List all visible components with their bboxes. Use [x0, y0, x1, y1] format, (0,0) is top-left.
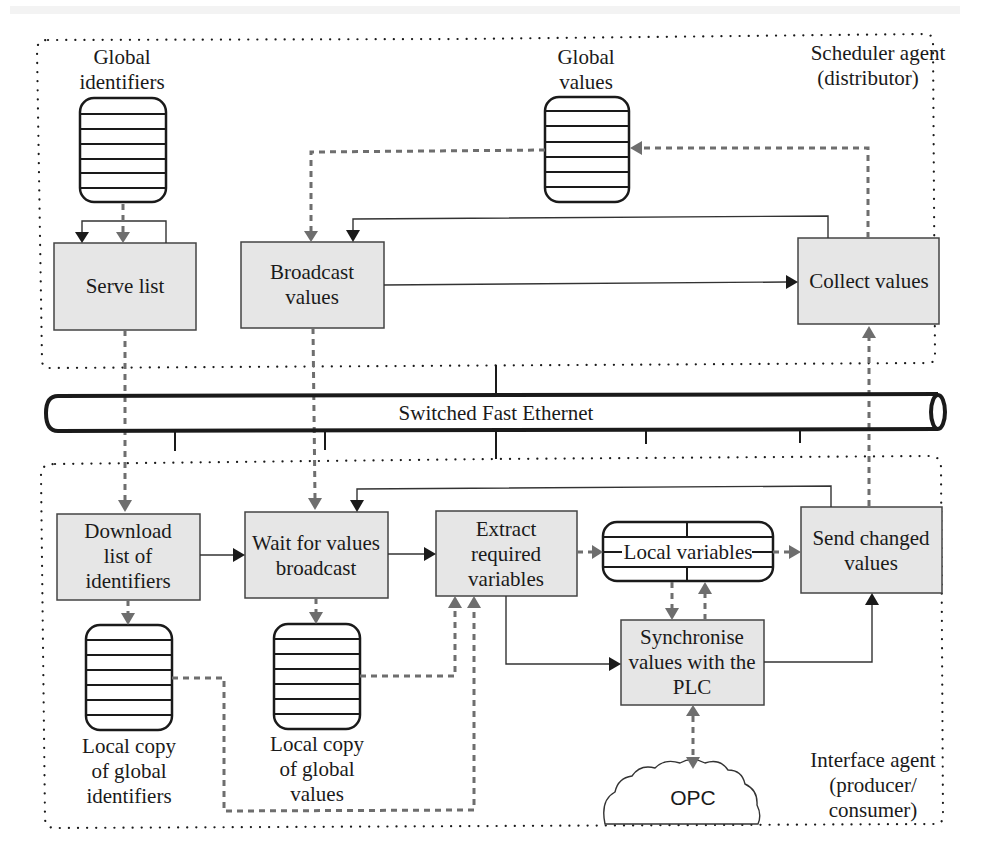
interface-agent-label: Interface agent	[810, 748, 935, 772]
download-list-label-2: list of	[104, 544, 152, 568]
arrowhead	[786, 275, 798, 289]
arrowhead	[865, 593, 879, 605]
arrowhead	[424, 547, 436, 561]
global-values-label-2: values	[559, 70, 613, 94]
opc-label: OPC	[670, 786, 716, 809]
sync-to-send-arrow	[764, 605, 872, 662]
arrowhead	[789, 545, 801, 559]
arrowhead	[698, 582, 712, 594]
global-values-to-broadcast-arrow	[311, 150, 545, 232]
global-values-store-icon	[545, 97, 629, 202]
arrowhead	[304, 231, 318, 242]
broadcast-values-label-2: values	[285, 285, 339, 309]
arrowhead	[118, 500, 132, 512]
global-identifiers-store-icon	[80, 98, 166, 202]
global-identifiers-label: Global	[93, 45, 150, 69]
arrowhead	[75, 232, 89, 243]
arrowhead	[121, 613, 135, 625]
arrowhead	[448, 596, 462, 608]
arrowhead	[467, 596, 481, 608]
scheduler-agent-label: Scheduler agent	[811, 41, 946, 65]
download-list-label: Download	[84, 519, 172, 543]
network-label: Switched Fast Ethernet	[399, 401, 594, 425]
collect-values-label: Collect values	[809, 269, 929, 293]
arrowhead	[308, 498, 322, 510]
download-list-label-3: identifiers	[85, 569, 170, 593]
arrowhead	[346, 230, 360, 242]
global-values-label: Global	[557, 45, 614, 69]
scheduler-agent-sublabel: (distributor)	[817, 66, 918, 90]
broadcast-values-label: Broadcast	[270, 260, 354, 284]
extract-to-sync-arrow	[506, 596, 609, 664]
global-identifiers-label-2: identifiers	[79, 70, 164, 94]
interface-agent-sublabel-2: consumer)	[829, 798, 918, 822]
wait-broadcast-label: Wait for values	[252, 531, 380, 555]
local-values-label-2: of global	[279, 757, 354, 781]
arrowhead	[665, 608, 679, 620]
local-values-store-icon	[274, 624, 360, 729]
send-changed-values-process[interactable]	[801, 507, 942, 593]
interface-agent-sublabel: (producer/	[829, 773, 917, 797]
arrowhead	[350, 500, 364, 512]
local-values-label: Local copy	[270, 732, 364, 756]
arrowhead	[309, 612, 323, 624]
collect-to-global-values-arrow	[641, 148, 868, 238]
arrowhead	[609, 657, 621, 671]
extract-variables-label-3: variables	[468, 567, 544, 591]
local-identifiers-label: Local copy	[82, 734, 176, 758]
send-changed-values-label-2: values	[844, 551, 898, 575]
send-changed-values-label: Send changed	[812, 526, 930, 550]
arrowhead	[630, 141, 642, 155]
wait-broadcast-label-2: broadcast	[276, 556, 357, 580]
architecture-diagram: Scheduler agent (distributor) Global ide…	[0, 0, 984, 859]
local-identifiers-label-3: identifiers	[86, 784, 171, 808]
local-values-label-3: values	[290, 782, 344, 806]
arrowhead	[862, 326, 876, 338]
scan-header-remnant	[10, 6, 960, 14]
arrowhead	[116, 232, 130, 243]
arrowhead	[686, 705, 700, 716]
extract-variables-label: Extract	[476, 517, 537, 541]
local-variables-label: Local variables	[624, 540, 753, 564]
collect-to-broadcast-loop-arrow	[353, 216, 828, 238]
local-values-to-extract-arrow	[360, 608, 455, 676]
arrowhead	[592, 545, 603, 559]
local-identifiers-label-2: of global	[91, 759, 166, 783]
broadcast-to-wait-arrow	[313, 328, 315, 498]
synchronise-label: Synchronise	[640, 625, 744, 649]
extract-variables-label-2: required	[471, 542, 541, 566]
serve-list-label: Serve list	[86, 274, 165, 298]
broadcast-to-collect-arrow	[384, 282, 786, 285]
arrowhead	[233, 548, 245, 562]
synchronise-label-2: values with the	[628, 650, 755, 674]
send-to-wait-loop-arrow	[357, 486, 831, 507]
wait-broadcast-process[interactable]	[245, 512, 388, 598]
synchronise-label-3: PLC	[673, 675, 712, 699]
local-identifiers-store-icon	[86, 625, 172, 730]
